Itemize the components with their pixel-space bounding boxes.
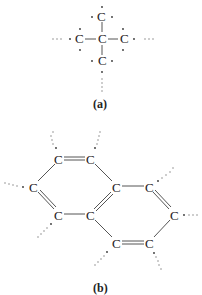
bond-b6 (94, 192, 111, 209)
diagram-canvas: C C C C C (0, 0, 202, 295)
atom-bottom: C (98, 53, 107, 68)
panel-label-b: (b) (93, 281, 108, 295)
atom-b7: C (86, 208, 95, 223)
panel-a: C C C C C (52, 6, 153, 111)
atom-b3: C (29, 180, 38, 195)
bond-b3 (38, 192, 54, 209)
atom-b6: C (54, 208, 63, 223)
atom-b4: C (112, 180, 121, 195)
atom-center: C (98, 31, 107, 46)
bond-b2 (38, 164, 55, 181)
panel-b: C C C C C C C C C C (4, 131, 197, 295)
atom-top: C (97, 9, 106, 24)
atom-b1: C (54, 152, 63, 167)
atom-b5: C (145, 180, 154, 195)
bond-b5 (95, 164, 112, 181)
atom-b10: C (145, 236, 154, 251)
atom-b8: C (170, 208, 179, 223)
continuation-dots-b (4, 131, 197, 269)
atom-left: C (75, 31, 84, 46)
panel-label-a: (a) (93, 97, 107, 111)
atom-b2: C (86, 152, 95, 167)
atom-b9: C (112, 236, 121, 251)
bond-b8 (153, 192, 169, 209)
bond-b11 (95, 220, 112, 237)
bond-b9 (154, 220, 170, 237)
atom-right: C (120, 31, 129, 46)
